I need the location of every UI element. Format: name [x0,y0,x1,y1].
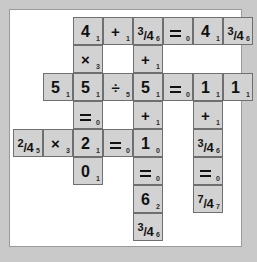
cell-subscript: 6 [156,35,160,43]
cell-main-glyph [164,74,187,102]
equals-icon [140,169,151,178]
cell-main-glyph: × [44,130,67,158]
cell-main-glyph: × [74,46,97,74]
cell-subscript: 1 [216,91,220,99]
cell-subscript: 3 [66,147,70,155]
equals-icon [110,141,121,150]
cell-subscript: 0 [186,35,190,43]
grid-cell-r4-c3[interactable]: 10 [133,129,163,157]
fraction-denominator: 4 [206,140,213,155]
cell-subscript: 0 [126,147,130,155]
equals-icon [170,29,181,38]
cell-main-glyph: 3/4 [194,130,217,158]
equals-icon [200,169,211,178]
grid-cell-r0-c4[interactable]: 0 [163,17,193,45]
cell-main-glyph: 0 [74,158,97,186]
cell-subscript: 1 [216,119,220,127]
grid-cell-r6-c3[interactable]: 62 [133,185,163,213]
cell-subscript: 5 [36,147,40,155]
fraction-denominator: 4 [236,28,243,43]
cell-subscript: 1 [156,63,160,71]
cell-subscript: 1 [96,91,100,99]
cell-subscript: 1 [96,175,100,183]
cell-subscript: 0 [96,119,100,127]
cell-subscript: 0 [156,175,160,183]
cell-main-glyph: 2 [74,130,97,158]
equals-icon [80,113,91,122]
grid-cell-r4-c-1[interactable]: 2/45 [13,129,43,157]
cell-main-glyph: + [134,46,157,74]
cell-main-glyph: 3/4 [134,18,157,46]
cell-main-glyph [194,158,217,186]
cell-subscript: 6 [216,147,220,155]
grid-cell-r4-c5[interactable]: 3/46 [193,129,223,157]
cell-main-glyph [164,18,187,46]
cell-main-glyph: 5 [44,74,67,102]
cell-main-glyph: 3/4 [134,214,157,242]
grid-cell-r2-c4[interactable]: 0 [163,73,193,101]
grid-cell-r5-c5[interactable]: 0 [193,157,223,185]
cell-subscript: 7 [216,203,220,211]
grid-cell-r0-c5[interactable]: 41 [193,17,223,45]
cell-main-glyph: 7/4 [194,186,217,214]
cell-main-glyph: 5 [134,74,157,102]
cell-subscript: 5 [126,91,130,99]
grid-cell-r2-c6[interactable]: 11 [223,73,253,101]
cell-subscript: 2 [156,203,160,211]
cell-main-glyph: 4 [74,18,97,46]
cell-main-glyph [134,158,157,186]
cell-main-glyph: + [104,18,127,46]
grid-cell-r0-c1[interactable]: 41 [73,17,103,45]
cell-main-glyph [104,130,127,158]
cell-main-glyph: 3/4 [224,18,247,46]
grid-cell-r3-c3[interactable]: +1 [133,101,163,129]
cell-subscript: 6 [246,35,250,43]
cell-subscript: 1 [216,35,220,43]
cell-subscript: 0 [186,91,190,99]
grid-cell-r3-c5[interactable]: +1 [193,101,223,129]
grid-cell-r2-c3[interactable]: 51 [133,73,163,101]
fraction-denominator: 4 [146,28,153,43]
cell-subscript: 1 [96,147,100,155]
cell-main-glyph: 1 [194,74,217,102]
grid-cell-r2-c1[interactable]: 51 [73,73,103,101]
grid-cell-r0-c2[interactable]: +1 [103,17,133,45]
cell-main-glyph: + [134,102,157,130]
grid-cell-r5-c3[interactable]: 0 [133,157,163,185]
cell-subscript: 1 [126,35,130,43]
cell-subscript: 1 [156,91,160,99]
cell-subscript: 6 [156,231,160,239]
cell-main-glyph: 6 [134,186,157,214]
page-background: 41+13/460413/46×3+15151÷551011110+1+12/4… [0,0,257,262]
grid-cell-r1-c3[interactable]: +1 [133,45,163,73]
equals-icon [170,85,181,94]
grid-cell-r2-c2[interactable]: ÷5 [103,73,133,101]
fraction-denominator: 4 [26,140,33,155]
grid-cell-r4-c0[interactable]: ×3 [43,129,73,157]
cell-main-glyph: 4 [194,18,217,46]
cell-subscript: 0 [156,147,160,155]
grid-cell-r4-c1[interactable]: 21 [73,129,103,157]
cell-main-glyph: + [194,102,217,130]
cell-main-glyph: 1 [224,74,247,102]
grid-cell-r0-c3[interactable]: 3/46 [133,17,163,45]
puzzle-grid: 41+13/460413/46×3+15151÷551011110+1+12/4… [10,10,243,248]
fraction-denominator: 4 [146,224,153,239]
grid-cell-r5-c1[interactable]: 01 [73,157,103,185]
cell-main-glyph: 1 [134,130,157,158]
grid-cell-r2-c5[interactable]: 11 [193,73,223,101]
grid-cell-r0-c6[interactable]: 3/46 [223,17,253,45]
cell-subscript: 0 [216,175,220,183]
grid-cell-r4-c2[interactable]: 0 [103,129,133,157]
cell-subscript: 1 [246,91,250,99]
fraction-denominator: 4 [206,196,213,211]
cell-main-glyph: ÷ [104,74,127,102]
cell-subscript: 1 [96,35,100,43]
grid-cell-r7-c3[interactable]: 3/46 [133,213,163,241]
cell-subscript: 3 [96,63,100,71]
cell-main-glyph [74,102,97,130]
grid-cell-r2-c0[interactable]: 51 [43,73,73,101]
grid-cell-r6-c5[interactable]: 7/47 [193,185,223,213]
grid-cell-r1-c1[interactable]: ×3 [73,45,103,73]
grid-cell-r3-c1[interactable]: 0 [73,101,103,129]
